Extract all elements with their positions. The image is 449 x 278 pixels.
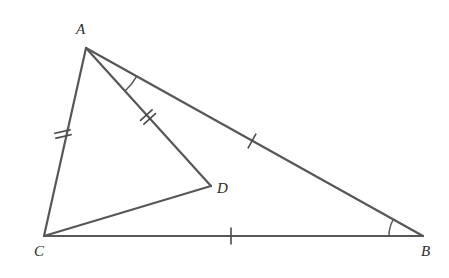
angle-arc-B — [389, 219, 393, 236]
segments-group — [44, 48, 423, 236]
segment-AD — [86, 48, 211, 186]
geometry-figure: A B C D — [0, 0, 449, 278]
tick-mark-AC — [54, 130, 72, 139]
segment-CD — [44, 186, 211, 236]
angle-arc-A — [125, 76, 137, 91]
segment-AC — [44, 48, 86, 236]
vertex-label-C: C — [34, 244, 44, 259]
vertex-label-D: D — [217, 181, 228, 196]
angle-arcs-group — [125, 76, 393, 236]
vertex-label-A: A — [76, 22, 85, 37]
figure-canvas — [0, 0, 449, 278]
vertex-label-B: B — [421, 244, 430, 259]
